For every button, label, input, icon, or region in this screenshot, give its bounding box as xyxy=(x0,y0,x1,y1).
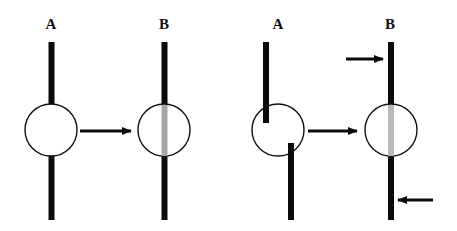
label-a-right: A xyxy=(273,16,284,32)
state-a-left xyxy=(25,42,77,220)
upper-bar-offset xyxy=(263,42,269,123)
state-a-right xyxy=(252,42,304,220)
label-b-right: B xyxy=(385,16,395,32)
label-b-left: B xyxy=(159,16,169,32)
circle-a-right xyxy=(252,104,304,156)
circle-a-left xyxy=(25,104,77,156)
gray-segment-left xyxy=(162,105,168,156)
state-b-left xyxy=(138,42,190,220)
label-a-left: A xyxy=(46,16,57,32)
diagram-canvas: A B A B xyxy=(0,0,457,231)
right-panel: A B xyxy=(252,16,433,220)
lower-bar-offset xyxy=(288,143,294,220)
gray-segment-right xyxy=(388,105,394,156)
left-panel: A B xyxy=(25,16,190,220)
state-b-right xyxy=(346,42,433,220)
